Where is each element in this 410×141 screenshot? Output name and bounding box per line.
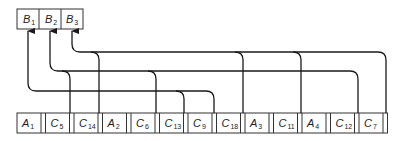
chain-b3-arrow [72, 31, 99, 113]
chain-b3-c7 [293, 52, 386, 113]
chain-b3-c18 [91, 52, 243, 113]
chain-b2-arrow [50, 31, 70, 113]
chain-b2-line [62, 71, 156, 113]
chain-b1-arrow [28, 31, 184, 113]
chain-b1-c9 [176, 91, 214, 113]
bottom-array: A1C5C14A2C6C13C9C18A3C11A4C12C7 [17, 113, 388, 133]
top-array: B1 B2 B3 [17, 9, 83, 29]
linked-list-diagram: B1 B2 B3 A1C5C14A2C6C13C9C18A3C11A4C12C7 [0, 0, 410, 141]
chain-b3-c11 [235, 52, 301, 113]
chain-links [28, 31, 386, 113]
